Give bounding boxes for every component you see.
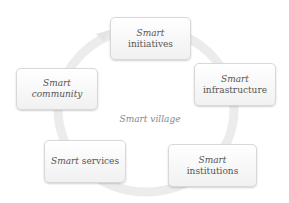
node-smart-community: Smart community bbox=[16, 68, 98, 110]
node-smart-institutions: Smart institutions bbox=[168, 144, 257, 187]
node-suffix: initiatives bbox=[128, 39, 173, 49]
center-label: Smart village bbox=[110, 114, 190, 124]
node-smart-services: Smart services bbox=[44, 140, 126, 183]
node-suffix: institutions bbox=[187, 166, 239, 176]
node-prefix: Smart bbox=[199, 155, 227, 165]
node-smart-initiatives: Smart initiatives bbox=[110, 17, 191, 60]
node-line2: infrastructure bbox=[203, 85, 267, 95]
node-smart-infrastructure: Smart infrastructure bbox=[194, 63, 276, 106]
node-prefix: Smart bbox=[221, 74, 249, 84]
node-suffix: services bbox=[79, 156, 119, 166]
node-prefix: Smart bbox=[51, 156, 79, 166]
node-prefix: Smart bbox=[137, 28, 165, 38]
node-prefix: Smart bbox=[43, 78, 71, 88]
node-suffix: community bbox=[32, 89, 83, 99]
